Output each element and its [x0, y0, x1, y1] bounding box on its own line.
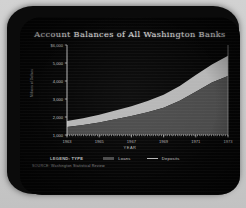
- y-axis-tick-label: $6,000: [50, 43, 63, 48]
- x-axis-tick-label: 1965: [95, 139, 105, 144]
- chart-legend: LEGEND: TYPE Loans Deposits: [50, 156, 234, 161]
- crt-monitor-bezel: Account Balances of All Washington Banks…: [7, 6, 239, 194]
- x-axis-label: YEAR: [20, 145, 240, 150]
- x-axis-tick-label: 1969: [159, 139, 169, 144]
- y-axis-ticks: $6,0005,0004,0003,0002,0001,000: [50, 43, 67, 138]
- plot-area: $6,0005,0004,0003,0002,0001,000 19631965…: [20, 17, 240, 195]
- y-axis-tick-label: 5,000: [53, 61, 64, 66]
- x-axis-tick-label: 1963: [62, 139, 72, 144]
- crt-screen: Account Balances of All Washington Banks…: [20, 17, 240, 195]
- y-axis-tick-label: 3,000: [53, 97, 64, 102]
- screenshot-root: Account Balances of All Washington Banks…: [0, 0, 246, 208]
- legend-item-loans: Loans: [103, 156, 130, 161]
- x-axis-ticks: 196319651967196919711973: [62, 135, 233, 144]
- y-axis-tick-label: 4,000: [53, 79, 64, 84]
- x-axis-tick-label: 1973: [223, 139, 233, 144]
- chart-surface: Account Balances of All Washington Banks…: [20, 17, 240, 195]
- y-axis-tick-label: 1,000: [53, 133, 64, 138]
- source-note: SOURCE: Washington Statistical Review: [32, 164, 105, 168]
- legend-item-deposits: Deposits: [147, 156, 180, 161]
- y-axis-label: Millions of Dollars: [30, 55, 34, 111]
- legend-swatch-loans-icon: [103, 157, 114, 160]
- x-axis-tick-label: 1971: [191, 139, 201, 144]
- legend-title: LEGEND: TYPE: [50, 156, 83, 161]
- legend-label-deposits: Deposits: [162, 156, 180, 161]
- legend-swatch-deposits-icon: [147, 158, 158, 160]
- y-axis-tick-label: 2,000: [53, 115, 64, 120]
- x-axis-tick-label: 1967: [127, 139, 137, 144]
- legend-label-loans: Loans: [118, 156, 130, 161]
- stacked-area-chart: $6,0005,0004,0003,0002,0001,000 19631965…: [20, 17, 240, 195]
